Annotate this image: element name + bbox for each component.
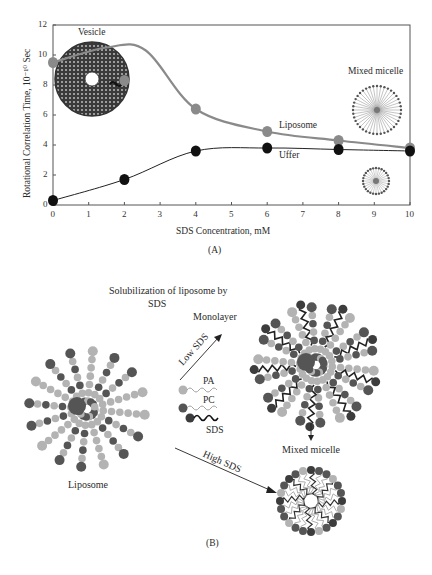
liposome-label: Liposome — [68, 479, 108, 490]
low-sds-label: Low SDS — [176, 331, 210, 367]
down-arrow-icon — [308, 423, 314, 441]
pa-legend-label: PA — [203, 376, 214, 386]
x-tick-label: 4 — [193, 209, 198, 219]
liposome-series-label: Liposome — [279, 120, 317, 130]
pa-legend-icon — [179, 386, 218, 395]
x-axis-label: SDS Concentration, mM — [176, 226, 270, 236]
high-sds-label: High SDS — [202, 448, 244, 475]
liposome-structure-icon — [24, 346, 149, 471]
y-tick-label: 2 — [43, 169, 48, 179]
pc-legend-label: PC — [203, 395, 215, 405]
high-sds-arrow-icon — [175, 448, 277, 493]
mixed-micelle-label: Mixed micelle — [348, 66, 403, 76]
uffer-series-points — [48, 143, 415, 207]
panel-b-label: (B) — [206, 538, 219, 548]
x-tick-label: 8 — [336, 209, 341, 219]
y-axis-label: Rotational Correlation Time, 10⁻¹⁰ Sec — [21, 49, 32, 198]
uffer-series-line — [53, 148, 410, 201]
x-tick-label: 5 — [229, 209, 234, 219]
x-tick-label: 0 — [51, 209, 56, 219]
y-tick-label: 6 — [43, 109, 48, 119]
sds-legend-label: SDS — [206, 425, 223, 435]
x-tick-label: 7 — [300, 209, 305, 219]
uffer-series-label: Uffer — [279, 150, 299, 160]
uffer-data-point — [48, 195, 58, 206]
y-tick-label: 12 — [38, 19, 47, 29]
liposome-data-point — [191, 104, 201, 115]
x-tick-label: 6 — [265, 209, 270, 219]
liposome-data-point — [262, 126, 272, 137]
mixed-micelle-icon-large — [352, 85, 402, 135]
monolayer-structure-icon — [250, 300, 381, 431]
diagram-title-line2: SDS — [148, 298, 166, 309]
x-tick-label: 2 — [122, 209, 127, 219]
mixed-micelle-structure-icon — [276, 466, 346, 536]
y-tick-label: 10 — [38, 49, 47, 59]
uffer-data-point — [191, 146, 201, 157]
chart-canvas — [0, 0, 432, 260]
uffer-data-point — [405, 146, 415, 157]
x-tick-label: 9 — [372, 209, 377, 219]
x-tick-label: 3 — [158, 209, 163, 219]
uffer-data-point — [334, 144, 344, 155]
x-tick-label: 10 — [405, 209, 414, 219]
x-tick-label: 1 — [86, 209, 91, 219]
liposome-data-point — [119, 75, 129, 86]
sds-legend-icon — [186, 414, 219, 423]
mixed-micelle-icon-small — [362, 167, 390, 195]
vesicle-icon — [55, 42, 129, 116]
uffer-data-point — [262, 143, 272, 154]
mixed-micelle-diagram-label: Mixed micelle — [282, 444, 340, 455]
liposome-data-point — [48, 57, 58, 68]
panel-a-label: (A) — [208, 245, 221, 255]
y-tick-label: 4 — [43, 139, 48, 149]
y-tick-label: 0 — [43, 199, 48, 209]
y-tick-label: 8 — [43, 79, 48, 89]
vesicle-label: Vesicle — [78, 27, 105, 37]
monolayer-label: Monolayer — [193, 311, 237, 322]
diagram-title-line1: Solubilization of liposome by — [109, 285, 228, 296]
uffer-data-point — [119, 174, 129, 185]
